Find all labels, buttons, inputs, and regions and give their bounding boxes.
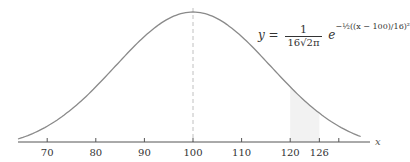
x-tick-label: 126 (310, 147, 329, 158)
formula-fraction: 1 16√2π (285, 23, 321, 48)
x-tick-label: 70 (41, 147, 54, 158)
formula-lhs: y = (258, 28, 279, 42)
x-tick-label: 90 (138, 147, 151, 158)
x-axis-label: x (375, 136, 381, 147)
x-tick-label: 100 (183, 147, 202, 158)
shaded-region (290, 87, 319, 142)
density-formula: y = 1 16√2π e−½((x − 100)/16)² (258, 22, 410, 48)
x-tick-label: 120 (281, 147, 300, 158)
formula-numerator: 1 (285, 23, 321, 37)
formula-exponent: −½((x − 100)/16)² (335, 22, 410, 31)
x-tick-label: 80 (89, 147, 102, 158)
formula-denominator: 16√2π (285, 37, 321, 48)
x-tick-label: 110 (232, 147, 251, 158)
